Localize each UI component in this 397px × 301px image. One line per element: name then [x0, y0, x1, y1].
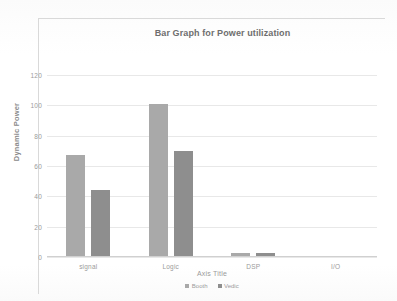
y-axis-title: Dynamic Power	[12, 103, 21, 161]
y-axis-tick-label: 80	[34, 132, 42, 139]
chart-legend: BoothVedic	[47, 283, 377, 289]
gridline	[47, 257, 377, 258]
bar-booth-signal	[66, 155, 85, 257]
y-axis-tick-label: 100	[31, 102, 42, 109]
bar-chart-image: Bar Graph for Power utilization Dynamic …	[0, 0, 397, 301]
x-axis-tick-label: signal	[79, 263, 97, 270]
y-axis-tick-label: 0	[38, 254, 42, 261]
bar-group: I/O	[295, 60, 378, 257]
legend-item-vedic: Vedic	[218, 283, 239, 289]
bar-group: Logic	[130, 60, 213, 257]
legend-swatch-icon	[218, 284, 222, 288]
bar-vedic-signal	[91, 190, 110, 257]
chart-title: Bar Graph for Power utilization	[0, 28, 397, 38]
x-axis-tick-label: DSP	[246, 263, 260, 270]
bar-group: signal	[47, 60, 130, 257]
legend-swatch-icon	[185, 284, 189, 288]
plot-area: 020406080100120signalLogicDSPI/O	[47, 60, 377, 257]
x-axis-tick-label: Logic	[162, 263, 179, 270]
y-axis-tick-label: 60	[34, 163, 42, 170]
bar-group: DSP	[212, 60, 295, 257]
legend-item-booth: Booth	[185, 283, 207, 289]
y-axis-tick-label: 120	[31, 72, 42, 79]
chart-top-border	[38, 18, 385, 19]
legend-label: Booth	[192, 283, 208, 289]
bar-booth-logic	[149, 104, 168, 257]
bar-vedic-logic	[174, 151, 193, 257]
x-axis-title: Axis Title	[47, 270, 377, 277]
x-axis-line	[47, 256, 377, 257]
legend-label: Vedic	[224, 283, 239, 289]
y-axis-tick-label: 40	[34, 193, 42, 200]
y-axis-tick-label: 20	[34, 223, 42, 230]
x-axis-tick-label: I/O	[331, 263, 340, 270]
